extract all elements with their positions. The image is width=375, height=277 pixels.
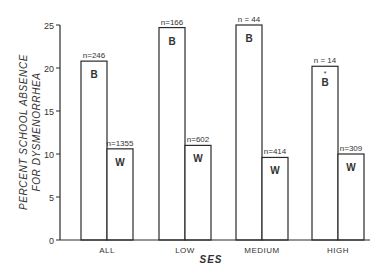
bar-group-letter: W — [346, 162, 356, 173]
bar-chart: 0510152025 n=246Bn=1355Wn=166Bn=602Wn = … — [0, 0, 375, 277]
bars: n=246Bn=1355Wn=166Bn=602Wn = 44Bn=414Wn … — [81, 15, 364, 240]
bar-W-medium: n=414W — [262, 147, 288, 240]
bar-group-letter: B — [168, 36, 175, 47]
sample-size-label: n=166 — [161, 18, 184, 27]
bar-group-letter: W — [115, 157, 125, 168]
bar-W-low: n=602W — [185, 135, 211, 240]
sample-size-label: n = 44 — [238, 15, 261, 24]
bar-B-medium: n = 44B — [236, 15, 262, 240]
sample-size-label: n=246 — [83, 51, 106, 60]
sample-size-label: n=309 — [340, 144, 363, 153]
bar-B-low: n=166B — [159, 18, 185, 240]
y-tick-label: 0 — [49, 236, 54, 246]
asterisk-marker: * — [324, 70, 327, 77]
sample-size-label: n=602 — [187, 135, 210, 144]
y-tick-label: 20 — [44, 64, 54, 74]
y-tick-label: 15 — [44, 107, 54, 117]
bar-B-high: n = 14*B — [312, 56, 338, 240]
sample-size-label: n=414 — [264, 147, 287, 156]
bar-group-letter: W — [193, 153, 203, 164]
x-axis-title: SES — [199, 254, 222, 265]
bar-B-all: n=246B — [81, 51, 107, 240]
bar-W-all: n=1355W — [107, 139, 134, 240]
x-tick-label: ALL — [99, 246, 115, 255]
x-tick-label: HIGH — [327, 246, 349, 255]
y-tick-label: 25 — [44, 21, 54, 31]
bar-group-letter: W — [270, 165, 280, 176]
y-axis-label-line1: PERCENT SCHOOL ABSENCE — [18, 54, 29, 210]
sample-size-label: n=1355 — [107, 139, 134, 148]
x-tick-label: LOW — [175, 246, 195, 255]
bar-group-letter: B — [90, 69, 97, 80]
y-axis: 0510152025 — [44, 21, 60, 246]
y-axis-label-line2: FOR DYSMENORRHEA — [31, 72, 42, 191]
bar-group-letter: B — [321, 77, 328, 88]
x-axis: ALLLOWMEDIUMHIGH — [60, 240, 370, 255]
bar-group-letter: B — [245, 33, 252, 44]
bar-W-high: n=309W — [338, 144, 364, 240]
y-tick-label: 5 — [49, 193, 54, 203]
sample-size-label: n = 14 — [314, 56, 337, 65]
x-tick-label: MEDIUM — [244, 246, 279, 255]
y-tick-label: 10 — [44, 150, 54, 160]
